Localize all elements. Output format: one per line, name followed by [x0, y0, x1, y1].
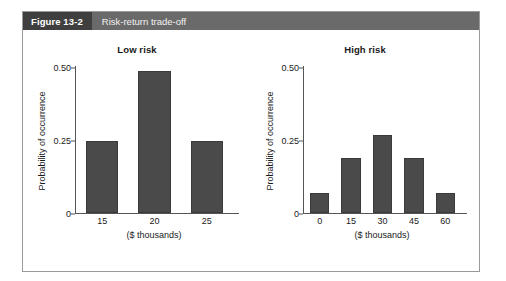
bar [436, 193, 455, 213]
chart-panel-high-risk: High risk Probability of occurrence 0.50… [251, 30, 479, 271]
x-axis-line [303, 213, 467, 214]
plot-area-high-risk: 0.50 0.25 0 [303, 68, 461, 214]
figure-header-bar: Figure 13-2 Risk-return trade-off [23, 12, 479, 30]
figure-number-label: Figure 13-2 [23, 12, 92, 30]
bar-slot [304, 68, 335, 213]
bar [404, 158, 423, 213]
y-tick-label-050: 0.50 [281, 63, 299, 73]
bar [341, 158, 360, 213]
y-tick-mark-0 [71, 214, 75, 215]
bar-slot [335, 68, 366, 213]
bar [86, 141, 118, 214]
y-axis-label-high-risk: Probability of occurrence [263, 68, 277, 214]
figure-caption-label: Risk-return trade-off [92, 12, 186, 30]
bar-slot [128, 68, 180, 213]
y-axis-label-text: Probability of occurrence [265, 91, 275, 190]
x-axis-label-high-risk: ($ thousands) [303, 230, 461, 240]
y-tick-label-025: 0.25 [53, 136, 71, 146]
figure-container: Figure 13-2 Risk-return trade-off Low ri… [22, 11, 480, 272]
x-tick-labels-low-risk: 15 20 25 [76, 216, 233, 226]
bar [373, 135, 392, 213]
y-axis-label-low-risk: Probability of occurrence [35, 68, 49, 214]
y-tick-mark-050 [299, 68, 303, 69]
x-axis-line [75, 213, 239, 214]
bar [138, 71, 170, 213]
x-tick-label: 45 [398, 216, 429, 226]
bar-slot [430, 68, 461, 213]
y-tick-label-025: 0.25 [281, 136, 299, 146]
x-tick-label: 25 [181, 216, 233, 226]
plot-area-low-risk: 0.50 0.25 0 [75, 68, 233, 214]
bar [310, 193, 329, 213]
bar-slot [76, 68, 128, 213]
bar-slot [367, 68, 398, 213]
x-tick-label: 15 [76, 216, 128, 226]
y-tick-mark-025 [71, 141, 75, 142]
x-axis-label-low-risk: ($ thousands) [75, 230, 233, 240]
x-tick-label: 0 [304, 216, 335, 226]
y-tick-mark-050 [71, 68, 75, 69]
y-tick-mark-025 [299, 141, 303, 142]
x-tick-label: 15 [335, 216, 366, 226]
x-tick-label: 30 [367, 216, 398, 226]
charts-area: Low risk Probability of occurrence 0.50 … [23, 30, 479, 271]
x-tick-label: 60 [430, 216, 461, 226]
y-axis-label-text: Probability of occurrence [37, 91, 47, 190]
y-tick-label-050: 0.50 [53, 63, 71, 73]
chart-panel-low-risk: Low risk Probability of occurrence 0.50 … [23, 30, 251, 271]
chart-title-high-risk: High risk [251, 44, 479, 55]
y-tick-mark-0 [299, 214, 303, 215]
chart-title-low-risk: Low risk [23, 44, 251, 55]
bar-slot [398, 68, 429, 213]
x-tick-labels-high-risk: 0 15 30 45 60 [304, 216, 461, 226]
bar-series-low-risk [76, 68, 233, 213]
x-tick-label: 20 [128, 216, 180, 226]
bar-series-high-risk [304, 68, 461, 213]
bar [191, 141, 223, 214]
bar-slot [181, 68, 233, 213]
